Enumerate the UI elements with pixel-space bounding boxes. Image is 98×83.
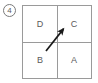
figure-container: 4 D C B A xyxy=(0,0,98,83)
grid-cell-top-left: D xyxy=(23,6,57,42)
grid-cell-bottom-right: A xyxy=(57,42,91,78)
figure-index-badge: 4 xyxy=(3,4,16,17)
grid-cell-top-right: C xyxy=(57,6,91,42)
grid-cell-bottom-left: B xyxy=(23,42,57,78)
quadrant-grid: D C B A xyxy=(22,5,92,79)
